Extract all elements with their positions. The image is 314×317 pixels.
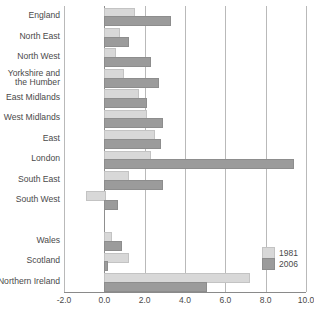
bar-2006 (104, 282, 207, 292)
legend: 1981 2006 (262, 248, 298, 269)
x-tick-label: 0.0 (98, 295, 110, 305)
category-label: London (0, 154, 60, 164)
bar-chart: -2.00.02.04.06.08.010.0 EnglandNorth Eas… (0, 0, 314, 317)
bar-2006 (104, 16, 171, 26)
bar-1981 (86, 191, 106, 201)
gridline-10.0 (306, 6, 307, 292)
x-tick-label: 8.0 (260, 295, 272, 305)
bar-2006 (104, 98, 146, 108)
bar-2006 (104, 78, 158, 88)
category-label: West Midlands (0, 114, 60, 124)
category-label: North East (0, 32, 60, 42)
category-label: Yorkshire and the Humber (0, 68, 60, 87)
x-tick-label: 4.0 (179, 295, 191, 305)
legend-label-1981: 1981 (279, 248, 298, 258)
legend-item-2006: 2006 (262, 259, 298, 269)
category-label: East Midlands (0, 93, 60, 103)
bar-2006 (104, 139, 160, 149)
bar-2006 (104, 180, 162, 190)
value-axis-line (64, 292, 306, 293)
bar-2006 (104, 37, 128, 47)
bar-2006 (104, 241, 122, 251)
x-tick-label: -2.0 (57, 295, 72, 305)
bar-2006 (104, 200, 118, 210)
category-label: South West (0, 195, 60, 205)
x-tick-label: 10.0 (298, 295, 314, 305)
bar-2006 (104, 118, 162, 128)
bar-2006 (104, 261, 108, 271)
legend-label-2006: 2006 (279, 259, 298, 269)
category-label: England (0, 11, 60, 21)
category-label: Northern Ireland (0, 277, 60, 287)
category-label: South East (0, 175, 60, 185)
x-tick-label: 6.0 (219, 295, 231, 305)
category-label: Scotland (0, 257, 60, 267)
category-label: Wales (0, 236, 60, 246)
bar-2006 (104, 159, 294, 169)
x-tick-label: 2.0 (139, 295, 151, 305)
legend-item-1981: 1981 (262, 248, 298, 258)
category-label: North West (0, 52, 60, 62)
bar-2006 (104, 57, 150, 67)
legend-swatch-2006 (262, 258, 275, 270)
category-label: East (0, 134, 60, 144)
